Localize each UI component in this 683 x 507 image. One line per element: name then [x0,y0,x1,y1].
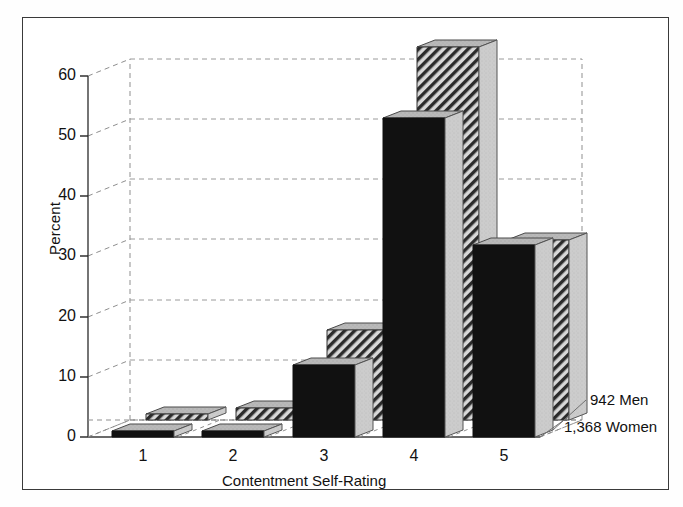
x-tick-label: 2 [213,447,253,465]
y-tick-label: 20 [42,307,76,325]
x-tick-label: 5 [484,447,524,465]
chart-screenshot: Percent 60 50 40 30 20 10 0 1 2 3 4 5 Co… [0,0,683,507]
x-tick-label: 1 [123,447,163,465]
bar-men-1 [112,424,192,437]
y-tick-label: 40 [42,186,76,204]
y-tick-label: 50 [42,126,76,144]
legend-label-women: 1,368 Women [564,418,657,435]
y-tick-label: 0 [42,427,76,445]
bar-men-3 [293,358,373,437]
x-tick-label: 3 [304,447,344,465]
y-tick-label: 10 [42,367,76,385]
x-axis-title: Contentment Self-Rating [222,472,386,489]
bar-men-5 [473,238,553,437]
y-tick-label: 30 [42,246,76,264]
bar-women-1 [146,407,226,420]
bar-men-4 [383,111,463,437]
bar-men-2 [202,424,282,437]
x-tick-label: 4 [394,447,434,465]
legend-label-men: 942 Men [590,391,648,408]
chart-stage: Percent 60 50 40 30 20 10 0 1 2 3 4 5 Co… [0,0,683,507]
y-tick-label: 60 [42,66,76,84]
